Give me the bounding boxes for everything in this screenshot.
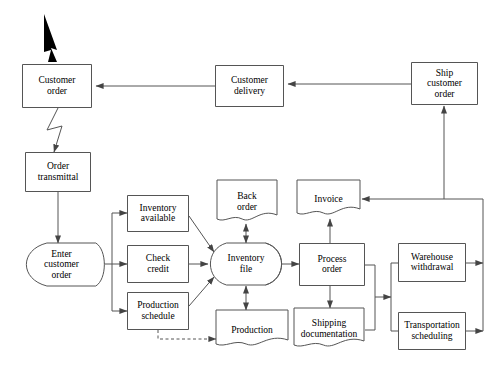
node-label-inventory_available: Inventory available <box>127 203 189 224</box>
node-ship_customer_order[interactable]: Ship customer order <box>411 62 478 105</box>
node-customer_delivery[interactable]: Customer delivery <box>215 65 284 107</box>
node-label-warehouse_withdrawal: Warehouse withdrawal <box>398 252 466 273</box>
node-label-shipping_documentation: Shipping documentation <box>294 318 364 339</box>
node-customer_order[interactable]: Customer order <box>22 64 92 108</box>
node-warehouse_withdrawal[interactable]: Warehouse withdrawal <box>398 243 466 282</box>
node-label-inventory_file: Inventory file <box>210 253 282 274</box>
input-arrow-to-customer-order <box>44 14 57 62</box>
node-production[interactable]: Production <box>216 310 288 349</box>
process-order-to-fanout <box>365 265 375 330</box>
node-label-customer_delivery: Customer delivery <box>215 75 284 96</box>
node-enter_customer_order[interactable]: Enter customer order <box>25 243 98 286</box>
node-shipping_documentation[interactable]: Shipping documentation <box>294 308 364 350</box>
node-invoice[interactable]: Invoice <box>297 180 360 218</box>
node-label-check_credit: Check credit <box>127 253 189 274</box>
node-label-production: Production <box>216 324 288 335</box>
node-process_order[interactable]: Process order <box>299 243 365 286</box>
node-label-production_schedule: Production schedule <box>127 300 189 321</box>
node-inventory_available[interactable]: Inventory available <box>127 195 189 232</box>
node-label-invoice: Invoice <box>297 194 360 205</box>
node-label-order_transmittal: Order transmittal <box>25 161 91 182</box>
production-schedule-dashed-production <box>158 330 216 339</box>
node-order_transmittal[interactable]: Order transmittal <box>25 152 91 192</box>
node-label-transportation_sched: Transportation scheduling <box>398 320 466 341</box>
node-label-ship_customer_order: Ship customer order <box>411 68 478 100</box>
node-back_order[interactable]: Back order <box>217 180 277 224</box>
node-transportation_sched[interactable]: Transportation scheduling <box>398 312 466 350</box>
customer-order-to-order-transmittal <box>47 108 62 152</box>
node-production_schedule[interactable]: Production schedule <box>127 292 189 330</box>
node-label-back_order: Back order <box>217 191 277 212</box>
node-inventory_file[interactable]: Inventory file <box>210 243 282 285</box>
node-check_credit[interactable]: Check credit <box>127 245 189 283</box>
flowchart-canvas: Customer orderCustomer deliveryShip cust… <box>0 0 499 365</box>
node-label-customer_order: Customer order <box>22 75 92 96</box>
node-label-process_order: Process order <box>299 254 365 275</box>
node-label-enter_customer_order: Enter customer order <box>25 249 98 281</box>
